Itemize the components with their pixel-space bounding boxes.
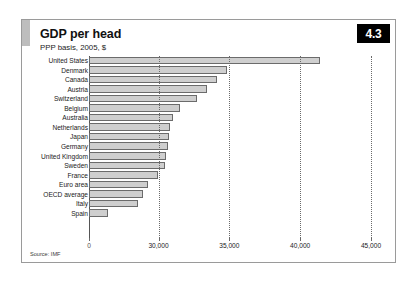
category-label: Belgium [64,104,88,113]
bar [89,209,108,217]
chart-bar-row: Japan [22,132,397,141]
gridline [371,56,372,238]
bar [89,95,197,103]
bar [89,133,169,141]
chart-bar-row: Australia [22,113,397,122]
gridline [300,56,301,238]
bar [89,152,166,160]
axis-tick-label: 45,000 [361,242,381,249]
chart-bar-row: Germany [22,142,397,151]
category-label: Japan [70,132,88,141]
bar [89,114,173,122]
category-label: United Kingdom [41,152,88,161]
screenshot-page: GDP per head PPP basis, 2005, $ 4.3 Unit… [0,0,415,283]
category-label: Spain [71,209,88,218]
category-label: Canada [65,75,88,84]
category-label: Italy [76,199,88,208]
bar [89,85,207,93]
category-label: Switzerland [54,94,88,103]
chart-bar-row: Euro area [22,180,397,189]
axis-tick-mark [300,238,301,241]
category-label: Australia [62,113,88,122]
category-label: Germany [61,142,88,151]
page-title: GDP per head [40,27,121,41]
bar [89,162,165,170]
axis-origin-tick [89,238,90,241]
chart-bar-row: Switzerland [22,94,397,103]
gridline [159,56,160,238]
chart-bar-row: United States [22,56,397,65]
bar [89,200,138,208]
category-label: Sweden [64,161,88,170]
axis-tick-label: 40,000 [290,242,310,249]
axis-tick-mark [371,238,372,241]
axis-tick-mark [159,238,160,241]
axis-tick-label: 30,000 [148,242,168,249]
category-label: United States [48,56,88,65]
chart-bar-row: France [22,171,397,180]
axis-origin-label: 0 [87,242,91,249]
chart-bar-row: Netherlands [22,123,397,132]
category-label: Euro area [59,180,88,189]
chart-bar-row: Italy [22,199,397,208]
chart-subtitle: PPP basis, 2005, $ [40,43,106,52]
plot-area: United StatesDenmarkCanadaAustriaSwitzer… [22,56,397,256]
figure-number-badge: 4.3 [357,24,390,43]
axis-tick-label: 35,000 [219,242,239,249]
bar [89,171,158,179]
bar [89,76,217,84]
chart-bar-row: Denmark [22,66,397,75]
category-label: Netherlands [52,123,88,132]
bar [89,181,148,189]
chart-bar-row: OECD average [22,190,397,199]
chart-bar-row: Spain [22,209,397,218]
category-label: Austria [67,85,88,94]
gridline [229,56,230,238]
category-label: Denmark [61,66,88,75]
bar [89,57,320,65]
chart-panel: GDP per head PPP basis, 2005, $ 4.3 Unit… [21,19,396,263]
accent-bar [22,20,30,46]
chart-bar-row: Sweden [22,161,397,170]
axis-tick-mark [229,238,230,241]
bar [89,190,143,198]
chart-bar-row: Belgium [22,104,397,113]
category-label: France [67,171,88,180]
chart-bar-row: Austria [22,85,397,94]
bar [89,142,168,150]
category-label: OECD average [43,190,88,199]
source-note: Source: IMF [30,251,60,257]
chart-bar-row: Canada [22,75,397,84]
bar [89,104,180,112]
chart-bar-row: United Kingdom [22,152,397,161]
